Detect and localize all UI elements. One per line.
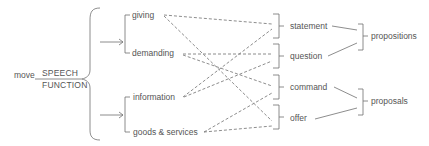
option-demanding: demanding [132, 48, 174, 58]
conn-giving-statement [164, 15, 272, 24]
question-bracket [273, 44, 279, 68]
system-label-bottom: FUNCTION [42, 80, 88, 90]
speech-function-command: command [290, 82, 327, 92]
option-information: information [133, 92, 175, 102]
speech-function-statement: statement [290, 21, 327, 31]
command-bracket [273, 75, 279, 99]
conn-information-question [184, 61, 272, 97]
propositions-bracket [358, 24, 363, 50]
option-goods-services: goods & services [133, 127, 198, 137]
root-label-move: move [14, 70, 35, 80]
curly-brace [82, 8, 100, 140]
conn-giving-offer [164, 16, 272, 121]
connection-lines [164, 15, 272, 132]
conn-goods-command [204, 93, 272, 132]
role-bracket [125, 15, 130, 53]
conn-goods-offer [204, 126, 272, 132]
system-label-top: SPEECH [42, 68, 78, 78]
grouping-proposals: proposals [371, 96, 408, 106]
grouping-propositions: propositions [371, 31, 417, 41]
option-giving: giving [132, 10, 154, 20]
statement-bracket [273, 14, 279, 38]
conn-demanding-command [183, 55, 272, 86]
speech-function-question: question [290, 51, 322, 61]
proposals-bracket [358, 89, 363, 115]
offer-bracket [273, 105, 279, 129]
speech-function-diagram: move SPEECH FUNCTION giving demanding in… [0, 0, 429, 146]
commodity-bracket [125, 97, 130, 132]
speech-function-offer: offer [290, 113, 307, 123]
conn-information-statement [183, 29, 272, 97]
